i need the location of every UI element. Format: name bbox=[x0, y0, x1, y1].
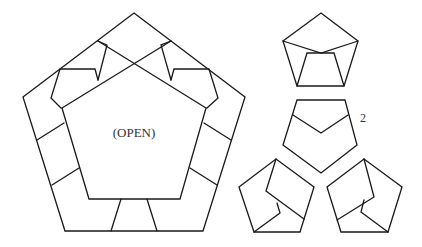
small-pentagon-bottom-right bbox=[327, 159, 402, 232]
bottom-divider-left bbox=[111, 199, 121, 231]
left-divider-1 bbox=[37, 123, 64, 140]
step-number-label: 2 bbox=[360, 111, 366, 125]
fold-line-lower bbox=[361, 200, 388, 232]
small-pentagon-middle: 2 bbox=[283, 100, 366, 173]
inner-trapezoid bbox=[297, 53, 344, 86]
right-divider-2 bbox=[190, 168, 217, 185]
right-divider-1 bbox=[204, 123, 231, 140]
pentagon-outline bbox=[239, 159, 314, 232]
left-divider-2 bbox=[52, 168, 79, 185]
side-flap-right bbox=[171, 69, 218, 108]
main-pentagon-figure: (OPEN) bbox=[23, 13, 245, 231]
pentagon-outline bbox=[327, 159, 402, 232]
pentagon-outline bbox=[283, 100, 357, 173]
small-pentagon-bottom-left bbox=[239, 159, 314, 232]
outer-pentagon bbox=[23, 13, 245, 231]
folding-diagram: (OPEN) 2 bbox=[0, 0, 422, 247]
pentagon-outline bbox=[283, 13, 358, 86]
fold-line bbox=[283, 41, 358, 53]
bottom-divider-right bbox=[147, 199, 157, 231]
inner-edge-left-extended bbox=[62, 41, 171, 108]
inner-edge-right-extended bbox=[98, 41, 206, 108]
small-pentagon-top bbox=[283, 13, 358, 86]
inner-pentagon bbox=[62, 108, 206, 199]
fold-line-upper bbox=[337, 159, 374, 220]
fold-line-upper bbox=[266, 159, 304, 219]
top-flap-left bbox=[98, 41, 107, 80]
v-fold-line bbox=[293, 115, 348, 133]
side-flap-left bbox=[51, 69, 98, 108]
fold-line-lower bbox=[254, 203, 280, 232]
open-label: (OPEN) bbox=[113, 125, 156, 140]
